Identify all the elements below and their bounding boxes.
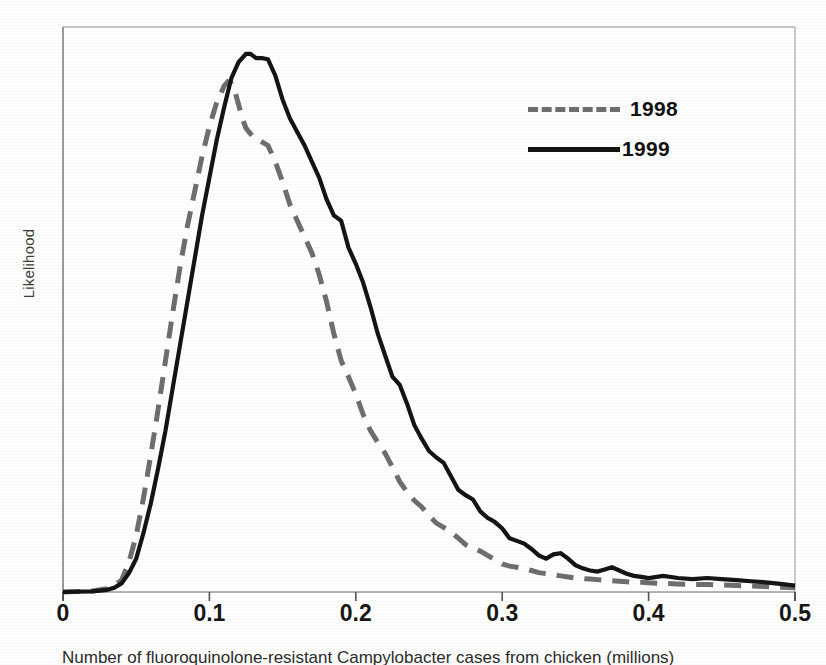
x-tick-label: 0.2 <box>340 600 372 627</box>
legend-label-1999: 1999 <box>622 137 670 161</box>
legend-label-1998: 1998 <box>630 97 678 121</box>
x-tick-label: 0.3 <box>486 600 518 627</box>
x-tick-label: 0.1 <box>193 600 225 627</box>
legend-item-1998: 1998 <box>528 96 678 122</box>
legend-item-1999: 1999 <box>528 136 670 162</box>
legend-swatch-solid-icon <box>528 147 620 152</box>
x-axis-tick-labels: 00.10.20.30.40.5 <box>0 600 826 634</box>
x-tick-label: 0.4 <box>633 600 665 627</box>
legend-swatch-dashed-icon <box>528 107 620 112</box>
x-tick-label: 0 <box>57 600 70 627</box>
chart-legend: 1998 1999 <box>528 96 728 166</box>
x-tick-label: 0.5 <box>779 600 811 627</box>
figure-container: Likelihood 00.10.20.30.40.5 1998 1999 Nu… <box>0 0 826 665</box>
figure-caption: Number of fluoroquinolone-resistant Camp… <box>62 648 822 665</box>
